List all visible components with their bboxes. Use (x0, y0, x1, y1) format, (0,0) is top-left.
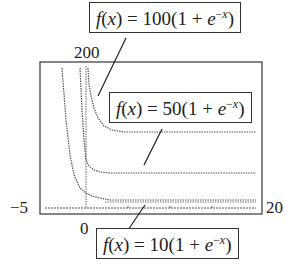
x-min-tick-label: −5 (10, 199, 28, 216)
x-max-tick-label: 20 (266, 199, 283, 216)
plot-frame (40, 62, 262, 214)
leader-line-100 (98, 38, 126, 96)
y-max-tick-label: 200 (74, 44, 100, 61)
label-f100: f(x) = 100(1 + e−x) (89, 2, 241, 33)
leader-line-10 (128, 205, 145, 230)
leader-line-50 (144, 129, 162, 165)
x-zero-tick-label: 0 (80, 220, 89, 237)
label-f50: f(x) = 50(1 + e−x) (109, 92, 252, 123)
label-f10: f(x) = 10(1 + e−x) (96, 228, 239, 259)
